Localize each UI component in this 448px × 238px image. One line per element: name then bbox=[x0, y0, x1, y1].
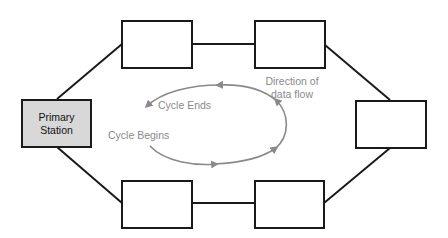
link-primary-topleft bbox=[57, 44, 122, 99]
direction-label-line2: data flow bbox=[262, 88, 322, 101]
primary-label-line2: Station bbox=[38, 124, 74, 137]
cycle-arrow-right-side bbox=[275, 100, 286, 149]
station-node-bottom-left bbox=[121, 180, 193, 229]
station-node-bottom-right bbox=[254, 180, 325, 229]
station-node-right bbox=[355, 100, 427, 149]
ring-links bbox=[57, 44, 390, 203]
primary-label-line1: Primary bbox=[38, 111, 74, 124]
station-node-top-left bbox=[121, 20, 193, 69]
ring-network-diagram: Primary Station Cycle Ends Cycle Begins … bbox=[0, 0, 448, 238]
link-right-bottomright bbox=[324, 148, 390, 203]
cycle-arrow-bottom-right bbox=[214, 148, 276, 164]
cycle-begins-label: Cycle Begins bbox=[108, 129, 169, 142]
direction-label-line1: Direction of bbox=[262, 75, 322, 88]
primary-station-node: Primary Station bbox=[21, 99, 92, 148]
station-node-top-right bbox=[254, 20, 326, 69]
link-bottomleft-primary bbox=[57, 147, 122, 203]
link-topright-right bbox=[325, 45, 390, 100]
primary-station-label: Primary Station bbox=[38, 111, 74, 137]
direction-of-data-flow-label: Direction of data flow bbox=[262, 75, 322, 101]
cycle-arrow-bottom bbox=[150, 146, 216, 164]
cycle-ends-label: Cycle Ends bbox=[158, 99, 211, 112]
